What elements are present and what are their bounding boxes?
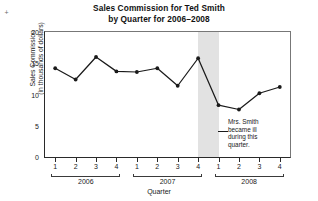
data-point-marker [74, 78, 78, 82]
y-tick-label: 5 [25, 122, 39, 129]
annotation-line-2: became ill [228, 126, 286, 134]
x-tick-mark [280, 158, 281, 162]
annotation-leader-line [218, 131, 228, 132]
x-tick-label: 2 [71, 163, 81, 170]
data-point-marker [217, 103, 221, 107]
x-tick-mark [219, 158, 220, 162]
x-axis-group-bracket [51, 174, 120, 177]
chart-figure: + Sales Commission for Ted Smith by Quar… [0, 0, 318, 201]
x-tick-label: 3 [91, 163, 101, 170]
x-tick-label: 1 [50, 163, 60, 170]
annotation-line-4: quarter. [228, 141, 286, 149]
data-point-marker [237, 108, 241, 112]
x-tick-mark [198, 158, 199, 162]
x-tick-mark [157, 158, 158, 162]
data-point-marker [196, 56, 200, 60]
x-tick-label: 1 [214, 163, 224, 170]
y-tick-label: 15 [25, 60, 39, 67]
data-point-marker [94, 55, 98, 59]
annotation-line-1: Mrs. Smith [228, 118, 286, 126]
x-axis-title: Quarter [0, 188, 318, 195]
data-point-marker [257, 91, 261, 95]
data-point-marker [115, 69, 119, 73]
x-tick-mark [259, 158, 260, 162]
data-point-marker [155, 66, 159, 70]
data-point-marker [176, 84, 180, 88]
data-point-marker [135, 70, 139, 74]
y-tick-label: 10 [25, 91, 39, 98]
annotation-text: Mrs. Smith became ill during this quarte… [228, 118, 286, 148]
chart-title-line-1: Sales Commission for Ted Smith [59, 3, 259, 14]
x-tick-label: 2 [152, 163, 162, 170]
x-axis-group-bracket [215, 174, 284, 177]
x-tick-label: 3 [173, 163, 183, 170]
y-tick-label: 20 [25, 29, 39, 36]
x-tick-label: 3 [254, 163, 264, 170]
x-tick-mark [137, 158, 138, 162]
annotation-line-3: during this [228, 133, 286, 141]
x-tick-mark [96, 158, 97, 162]
data-point-marker [278, 85, 282, 89]
chart-title: Sales Commission for Ted Smith by Quarte… [59, 3, 259, 24]
x-tick-mark [55, 158, 56, 162]
x-axis-group-bracket [133, 174, 202, 177]
corner-registration-mark: + [4, 10, 9, 15]
x-tick-label: 4 [275, 163, 285, 170]
x-tick-label: 4 [193, 163, 203, 170]
x-axis-group-label: 2006 [51, 178, 120, 185]
x-tick-label: 1 [132, 163, 142, 170]
x-tick-label: 2 [234, 163, 244, 170]
x-tick-mark [178, 158, 179, 162]
x-tick-mark [239, 158, 240, 162]
series-polyline [55, 57, 280, 110]
x-tick-label: 4 [111, 163, 121, 170]
x-tick-mark [76, 158, 77, 162]
x-tick-mark [116, 158, 117, 162]
x-axis-group-label: 2008 [215, 178, 284, 185]
chart-title-line-2: by Quarter for 2006–2008 [59, 14, 259, 25]
x-axis-group-label: 2007 [133, 178, 202, 185]
data-point-marker [53, 66, 57, 70]
y-tick-label: 0 [25, 154, 39, 161]
